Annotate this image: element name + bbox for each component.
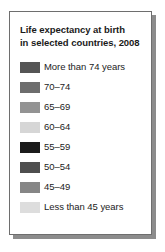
legend-swatch-less-than-45 xyxy=(20,202,40,213)
legend-swatch-65-69 xyxy=(20,102,40,113)
legend-label-55-59: 55–59 xyxy=(44,140,70,154)
legend-label-more-than-74: More than 74 years xyxy=(44,60,125,74)
legend-swatch-45-49 xyxy=(20,182,40,193)
legend-item-60-64: 60–64 xyxy=(20,118,148,138)
legend-label-65-69: 65–69 xyxy=(44,100,70,114)
legend-item-50-54: 50–54 xyxy=(20,158,148,178)
legend-label-60-64: 60–64 xyxy=(44,120,70,134)
legend-swatch-70-74 xyxy=(20,82,40,93)
map-legend-card: Life expectancy at birth in selected cou… xyxy=(9,11,152,235)
legend-label-70-74: 70–74 xyxy=(44,80,70,94)
legend-title-line-1: Life expectancy at birth xyxy=(20,24,146,37)
legend-label-less-than-45: Less than 45 years xyxy=(44,200,123,214)
legend-title-line-2: in selected countries, 2008 xyxy=(20,37,146,50)
legend-item-more-than-74: More than 74 years xyxy=(20,58,148,78)
legend-title: Life expectancy at birth in selected cou… xyxy=(20,24,146,49)
legend-swatch-55-59 xyxy=(20,142,40,153)
legend-label-50-54: 50–54 xyxy=(44,160,70,174)
legend-item-less-than-45: Less than 45 years xyxy=(20,198,148,218)
legend-label-45-49: 45–49 xyxy=(44,180,70,194)
legend-item-70-74: 70–74 xyxy=(20,78,148,98)
legend-item-65-69: 65–69 xyxy=(20,98,148,118)
legend-item-55-59: 55–59 xyxy=(20,138,148,158)
legend-swatch-more-than-74 xyxy=(20,62,40,73)
legend-swatch-50-54 xyxy=(20,162,40,173)
legend-item-list: More than 74 years 70–74 65–69 60–64 55–… xyxy=(20,58,148,218)
legend-swatch-60-64 xyxy=(20,122,40,133)
legend-item-45-49: 45–49 xyxy=(20,178,148,198)
